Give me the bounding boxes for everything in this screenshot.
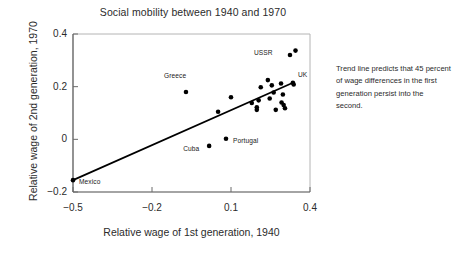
data-point [288,53,293,58]
trend-line [73,83,293,180]
point-label-ussr: USSR [254,49,273,56]
data-point [291,82,296,87]
data-point [270,83,275,88]
y-tick-label: 0 [31,133,67,144]
data-point [266,78,271,83]
data-point [271,90,276,95]
y-tick-label: −0.2 [31,186,67,197]
chart-figure: Social mobility between 1940 and 1970 Re… [0,0,453,253]
data-point [279,100,284,105]
data-point [207,144,212,149]
y-tick-label: 0.4 [31,28,67,39]
plot-frame-light [73,34,310,192]
point-label-uk: UK [298,71,307,78]
x-tick-label: 0.1 [211,202,251,213]
scatter-plot-area [0,0,453,253]
x-tick-label: −0.5 [53,202,93,213]
point-label-mexico: Mexico [79,178,101,185]
data-point [258,85,263,90]
data-point [255,108,260,113]
data-point [224,137,229,142]
data-point [256,98,261,103]
x-tick-label: −0.2 [132,202,172,213]
data-point [279,81,284,86]
x-tick-label: 0.4 [290,202,330,213]
data-point [283,106,288,111]
data-point [184,90,189,95]
data-point [281,92,286,97]
trendline-annotation: Trend line predicts that 45 percent of w… [336,63,452,112]
data-point [273,108,278,113]
point-label-greece: Greece [164,72,186,79]
data-point [293,48,298,53]
y-tick-label: 0.2 [31,81,67,92]
point-label-portugal: Portugal [233,137,258,144]
data-point [216,109,221,114]
data-point [229,95,234,100]
data-point [267,96,272,101]
data-point [71,178,76,183]
point-label-cuba: Cuba [183,145,199,152]
data-point [250,101,255,106]
